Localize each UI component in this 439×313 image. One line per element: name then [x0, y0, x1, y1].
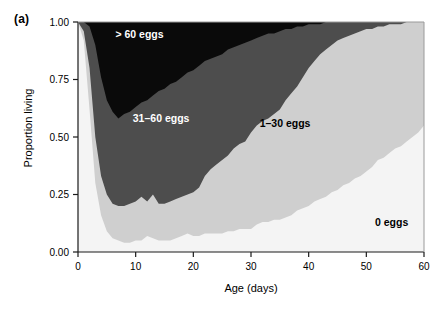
x-tick-label: 30	[245, 261, 257, 272]
y-tick-label: 0.75	[50, 74, 70, 85]
band-label-0: > 60 eggs	[115, 28, 163, 40]
x-tick-label: 10	[130, 261, 142, 272]
stacked-area-chart: > 60 eggs31–60 eggs1–30 eggs0 eggs 01020…	[0, 0, 439, 313]
y-tick-label: 1.00	[50, 17, 70, 28]
y-tick-label: 0.50	[50, 132, 70, 143]
x-tick-label: 20	[188, 261, 200, 272]
band-label-2: 1–30 eggs	[260, 117, 311, 129]
y-axis-ticks: 0.000.250.500.751.00	[50, 17, 78, 258]
x-tick-label: 60	[418, 261, 430, 272]
band-label-1: 31–60 eggs	[133, 112, 190, 124]
y-tick-label: 0.00	[50, 247, 70, 258]
x-axis-ticks: 0102030405060	[75, 252, 430, 272]
x-tick-label: 50	[361, 261, 373, 272]
y-tick-label: 0.25	[50, 189, 70, 200]
x-tick-label: 0	[75, 261, 81, 272]
band-label-3: 0 eggs	[375, 216, 408, 228]
area-bands	[78, 22, 424, 252]
x-tick-label: 40	[303, 261, 315, 272]
figure-panel-a: (a) Proportion living Age (days) > 60 eg…	[0, 0, 439, 313]
